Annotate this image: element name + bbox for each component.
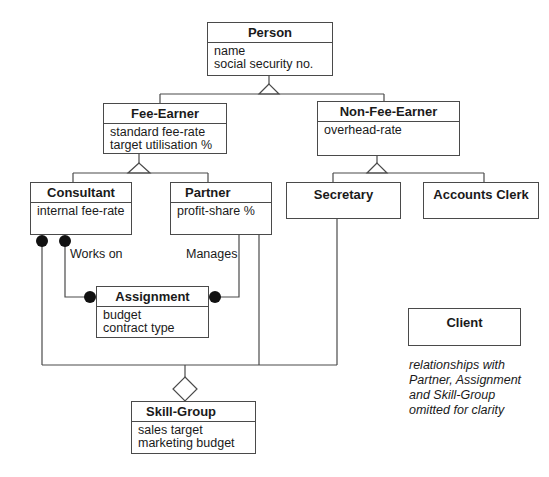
- note-line: and Skill-Group: [409, 388, 521, 403]
- attribute: marketing budget: [138, 437, 255, 450]
- class-name: Partner: [171, 183, 271, 203]
- attribute: social security no.: [214, 58, 332, 71]
- class-accounts-clerk: Accounts Clerk: [423, 182, 539, 219]
- class-name: Non-Fee-Earner: [318, 102, 459, 122]
- class-name: Secretary: [287, 183, 400, 204]
- attribute: target utilisation %: [110, 139, 226, 152]
- class-name: Fee-Earner: [104, 104, 226, 124]
- diagram-note: relationships with Partner, Assignment a…: [409, 358, 521, 418]
- note-line: omitted for clarity: [409, 403, 521, 418]
- association-label-works-on: Works on: [70, 247, 123, 261]
- class-name: Client: [409, 309, 520, 332]
- class-non-fee-earner: Non-Fee-Earner overhead-rate: [317, 101, 460, 156]
- note-line: Partner, Assignment: [409, 373, 521, 388]
- class-partner: Partner profit-share %: [170, 182, 272, 235]
- class-client: Client: [408, 308, 521, 346]
- class-person: Person name social security no.: [207, 22, 333, 76]
- class-fee-earner: Fee-Earner standard fee-rate target util…: [103, 103, 227, 154]
- class-consultant: Consultant internal fee-rate: [30, 182, 132, 235]
- class-name: Consultant: [31, 183, 131, 203]
- class-name: Person: [208, 23, 332, 43]
- class-name: Accounts Clerk: [424, 183, 538, 204]
- note-line: relationships with: [409, 358, 521, 373]
- class-name: Skill-Group: [132, 402, 255, 422]
- class-assignment: Assignment budget contract type: [96, 286, 209, 338]
- class-skill-group: Skill-Group sales target marketing budge…: [131, 401, 256, 454]
- class-secretary: Secretary: [286, 182, 401, 219]
- association-label-manages: Manages: [186, 247, 237, 261]
- attribute: contract type: [103, 322, 208, 335]
- class-name: Assignment: [97, 287, 208, 307]
- attribute: internal fee-rate: [37, 205, 131, 218]
- attribute: overhead-rate: [324, 124, 459, 137]
- attribute: profit-share %: [177, 205, 271, 218]
